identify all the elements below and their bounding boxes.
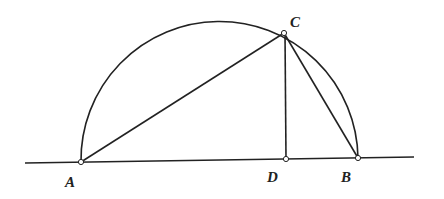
point-d: [283, 156, 288, 161]
semicircle-arc: [81, 22, 358, 162]
geometry-diagram: A D B C: [0, 0, 444, 199]
label-b: B: [340, 169, 351, 185]
point-b: [355, 155, 360, 160]
label-a: A: [64, 174, 75, 190]
label-d: D: [266, 169, 278, 185]
segment-ac: [81, 33, 284, 162]
segment-cd: [285, 33, 286, 159]
label-c: C: [290, 14, 301, 30]
segment-cb: [284, 33, 358, 158]
point-a: [78, 159, 83, 164]
point-c: [281, 30, 286, 35]
diagram-canvas: A D B C: [0, 0, 444, 199]
